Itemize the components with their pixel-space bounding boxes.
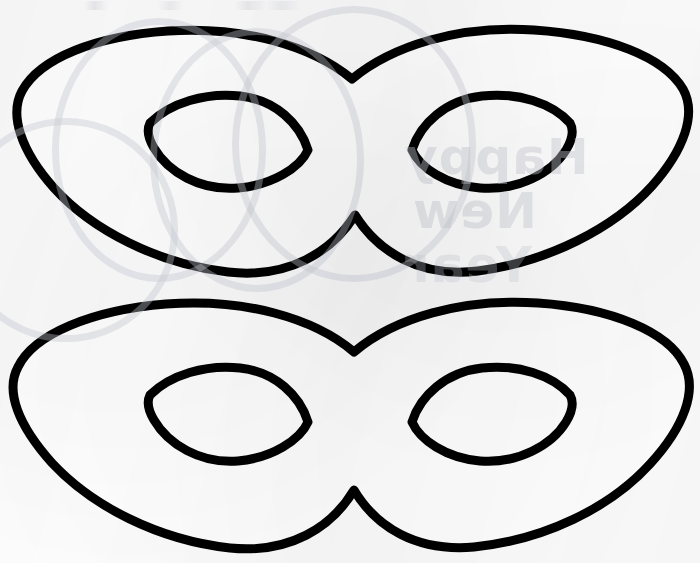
- mask-template-drawing: [0, 0, 700, 563]
- mask-bottom: [13, 302, 689, 549]
- mask-top: [17, 29, 689, 273]
- mask-top-outline: [17, 29, 689, 273]
- artwork-stage: [0, 0, 700, 563]
- mask-top-eye-left: [148, 95, 308, 188]
- scanned-page: Happy New Year: [0, 0, 700, 563]
- mask-bottom-outline: [13, 302, 689, 549]
